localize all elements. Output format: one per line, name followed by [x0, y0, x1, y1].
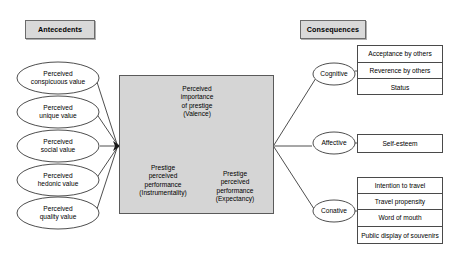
expectancy-line2: perceived: [199, 178, 271, 186]
table-row: Acceptance by others: [358, 46, 442, 63]
instrumentality-line3: performance: [124, 181, 202, 189]
cognitive-item-1: Reverence by others: [370, 67, 431, 75]
expectancy-line4: (Expectancy): [199, 195, 271, 203]
outcome-table-cognitive: Acceptance by others Reverence by others…: [357, 45, 443, 95]
diagram-canvas: Antecedents Consequences Perceived consp…: [0, 0, 455, 266]
ellipse-consequence-1: [313, 132, 355, 154]
affective-item-0: Self-esteem: [382, 140, 417, 148]
instrumentality-line2: perceived: [124, 172, 202, 180]
conative-item-1: Travel propensity: [375, 198, 425, 206]
conative-item-3: Public display of souvenirs: [361, 232, 439, 240]
table-row: Public display of souvenirs: [358, 227, 442, 245]
core-valence-label: Perceived importance of prestige (Valenc…: [163, 85, 231, 119]
valence-line3: of prestige: [163, 102, 231, 110]
table-row: Word of mouth: [358, 210, 442, 226]
table-row: Reverence by others: [358, 63, 442, 80]
instrumentality-line1: Prestige: [124, 164, 202, 172]
expectancy-line3: performance: [199, 187, 271, 195]
outcome-table-affective: Self-esteem: [357, 134, 443, 153]
ellipse-antecedent-4: [17, 197, 99, 229]
table-row: Travel propensity: [358, 194, 442, 210]
conative-item-2: Word of mouth: [378, 214, 421, 222]
core-instrumentality-label: Prestige perceived performance (Instrume…: [124, 164, 202, 198]
valence-line2: importance: [163, 93, 231, 101]
cognitive-item-0: Acceptance by others: [368, 50, 431, 58]
outcome-table-conative: Intention to travel Travel propensity Wo…: [357, 177, 443, 244]
header-antecedents: Antecedents: [25, 20, 95, 39]
ellipse-antecedent-2: [17, 130, 99, 162]
expectancy-line1: Prestige: [199, 170, 271, 178]
valence-line1: Perceived: [163, 85, 231, 93]
table-row: Intention to travel: [358, 178, 442, 194]
cognitive-item-2: Status: [391, 84, 410, 92]
table-row: Status: [358, 79, 442, 96]
ellipse-antecedent-1: [17, 96, 99, 128]
conative-item-0: Intention to travel: [375, 182, 426, 190]
header-consequences: Consequences: [300, 20, 366, 39]
ellipse-antecedent-0: [17, 62, 99, 94]
ellipse-consequence-0: [313, 63, 355, 85]
table-row: Self-esteem: [358, 135, 442, 152]
core-expectancy-label: Prestige perceived performance (Expectan…: [199, 170, 271, 204]
ellipse-consequence-2: [313, 200, 355, 222]
instrumentality-line4: (Instrumentality): [124, 189, 202, 197]
ellipse-antecedent-3: [17, 164, 99, 196]
valence-line4: (Valence): [163, 110, 231, 118]
